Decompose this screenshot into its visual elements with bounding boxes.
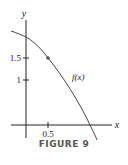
x-tick-label-0-5: 0.5 [42,129,54,139]
figure-caption: FIGURE 9 [0,139,128,149]
y-axis-label: y [21,8,27,19]
y-tick-label-1: 1 [17,75,22,85]
y-tick-label-1-5: 1.5 [10,53,22,63]
x-axis-label: x [114,119,120,130]
point-0-5-1-5 [46,56,50,60]
curve-f-x [11,31,97,140]
curve-label: f(x) [72,72,85,82]
figure-9: y x 1.5 1 0.5 f(x) FIGURE 9 [0,0,128,165]
